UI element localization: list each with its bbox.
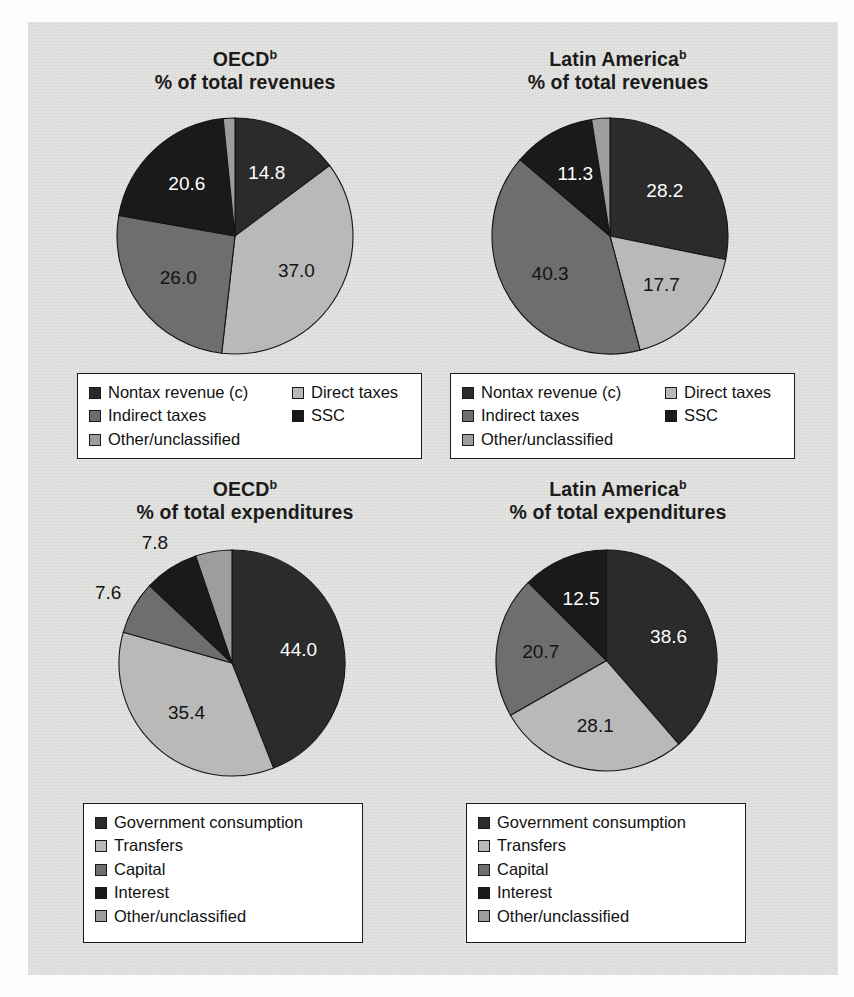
- legend-oecd-expenditures[interactable]: Government consumptionTransfersCapitalIn…: [83, 803, 363, 943]
- legend-column-2: Direct taxesSSC: [665, 381, 771, 428]
- chart-title-latin-america-expenditures: Latin Americab % of total expenditures: [428, 478, 808, 524]
- legend-item-label: Nontax revenue (c): [108, 381, 248, 404]
- legend-item-label: Other/unclassified: [497, 905, 629, 928]
- chart-title-oecd-revenues: OECDb % of total revenues: [55, 48, 435, 94]
- chart-title-latin-america-revenues: Latin Americab % of total revenues: [428, 48, 808, 94]
- pie-svg-oecd-expenditures: [117, 548, 347, 778]
- legend-item-label: Other/unclassified: [481, 428, 613, 451]
- pie-svg-latin-america-expenditures: [494, 548, 719, 773]
- legend-item[interactable]: Nontax revenue (c): [462, 381, 665, 404]
- legend-column-1: Nontax revenue (c)Indirect taxesOther/un…: [89, 381, 292, 451]
- pie-svg-latin-america-revenues: [490, 116, 730, 356]
- chart-title-superscript: b: [270, 478, 278, 492]
- legend-item-label: Government consumption: [114, 811, 303, 834]
- chart-title-superscript: b: [270, 48, 278, 62]
- transfers-swatch: [478, 840, 490, 852]
- legend-item[interactable]: Capital: [478, 858, 686, 881]
- legend-item[interactable]: Indirect taxes: [462, 404, 665, 427]
- ssc-swatch: [665, 410, 677, 422]
- chart-title-superscript: b: [679, 48, 687, 62]
- other-unclassified-swatch: [478, 910, 490, 922]
- chart-title-text: OECD: [213, 48, 270, 70]
- government-consumption-swatch: [478, 817, 490, 829]
- pie-latin-america-revenues: 28.217.740.311.3: [490, 116, 730, 356]
- pie-oecd-revenues: 14.837.026.020.6: [115, 116, 355, 356]
- legend-item[interactable]: Other/unclassified: [478, 905, 686, 928]
- legend-latin-america-expenditures[interactable]: Government consumptionTransfersCapitalIn…: [466, 803, 746, 943]
- legend-item-label: Capital: [114, 858, 165, 881]
- chart-title-text: Latin America: [549, 478, 679, 500]
- chart-title-text: OECD: [213, 478, 270, 500]
- legend-item[interactable]: Government consumption: [478, 811, 686, 834]
- legend-item[interactable]: Other/unclassified: [95, 905, 303, 928]
- chart-oecd-revenues: OECDb % of total revenues 14.837.026.020…: [55, 48, 435, 458]
- legend-item[interactable]: Transfers: [95, 834, 303, 857]
- legend-item[interactable]: Direct taxes: [665, 381, 771, 404]
- legend-latin-america-revenues[interactable]: Nontax revenue (c)Indirect taxesOther/un…: [450, 373, 795, 459]
- legend-item[interactable]: Capital: [95, 858, 303, 881]
- legend-item[interactable]: Government consumption: [95, 811, 303, 834]
- legend-item-label: Capital: [497, 858, 548, 881]
- ssc-swatch: [292, 410, 304, 422]
- legend-item-label: SSC: [311, 404, 345, 427]
- legend-item-label: Other/unclassified: [108, 428, 240, 451]
- interest-swatch: [95, 887, 107, 899]
- legend-column-1: Nontax revenue (c)Indirect taxesOther/un…: [462, 381, 665, 451]
- chart-title-text: Latin America: [549, 48, 679, 70]
- legend-item-label: Other/unclassified: [114, 905, 246, 928]
- legend-item-label: Transfers: [114, 834, 183, 857]
- legend-item-label: Nontax revenue (c): [481, 381, 621, 404]
- legend-column-1: Government consumptionTransfersCapitalIn…: [478, 811, 686, 928]
- pie-svg-oecd-revenues: [115, 116, 355, 356]
- chart-oecd-expenditures: OECDb % of total expenditures 44.035.47.…: [55, 478, 435, 963]
- pie-latin-america-expenditures: 38.628.120.712.5: [494, 548, 719, 773]
- pie-oecd-expenditures: 44.035.47.67.8: [117, 548, 347, 778]
- legend-item-label: Government consumption: [497, 811, 686, 834]
- chart-latin-america-expenditures: Latin Americab % of total expenditures 3…: [428, 478, 808, 963]
- pie-slice[interactable]: [119, 119, 235, 236]
- nontax-revenue-swatch: [462, 387, 474, 399]
- figure-page: OECDb % of total revenues 14.837.026.020…: [0, 0, 854, 997]
- chart-subtitle: % of total revenues: [55, 71, 435, 94]
- nontax-revenue-swatch: [89, 387, 101, 399]
- chart-title-oecd-expenditures: OECDb % of total expenditures: [55, 478, 435, 524]
- other-unclassified-swatch: [95, 910, 107, 922]
- legend-item-label: Direct taxes: [684, 381, 771, 404]
- legend-item[interactable]: Interest: [478, 881, 686, 904]
- legend-item-label: Direct taxes: [311, 381, 398, 404]
- legend-item[interactable]: SSC: [665, 404, 771, 427]
- direct-taxes-swatch: [665, 387, 677, 399]
- legend-item[interactable]: Transfers: [478, 834, 686, 857]
- transfers-swatch: [95, 840, 107, 852]
- legend-item-label: Transfers: [497, 834, 566, 857]
- capital-swatch: [95, 864, 107, 876]
- chart-title-superscript: b: [679, 478, 687, 492]
- legend-item[interactable]: Direct taxes: [292, 381, 398, 404]
- legend-item-label: SSC: [684, 404, 718, 427]
- indirect-taxes-swatch: [89, 410, 101, 422]
- legend-item[interactable]: Nontax revenue (c): [89, 381, 292, 404]
- legend-oecd-revenues[interactable]: Nontax revenue (c)Indirect taxesOther/un…: [77, 373, 422, 459]
- legend-item[interactable]: Interest: [95, 881, 303, 904]
- legend-item-label: Indirect taxes: [481, 404, 579, 427]
- chart-subtitle: % of total revenues: [428, 71, 808, 94]
- legend-item-label: Indirect taxes: [108, 404, 206, 427]
- indirect-taxes-swatch: [462, 410, 474, 422]
- legend-item[interactable]: Indirect taxes: [89, 404, 292, 427]
- chart-subtitle: % of total expenditures: [428, 501, 808, 524]
- pie-slice[interactable]: [117, 215, 235, 353]
- capital-swatch: [478, 864, 490, 876]
- government-consumption-swatch: [95, 817, 107, 829]
- legend-column-1: Government consumptionTransfersCapitalIn…: [95, 811, 303, 928]
- legend-item-label: Interest: [114, 881, 169, 904]
- other-unclassified-swatch: [89, 434, 101, 446]
- legend-column-2: Direct taxesSSC: [292, 381, 398, 428]
- legend-item-label: Interest: [497, 881, 552, 904]
- pie-slice[interactable]: [610, 118, 728, 260]
- chart-latin-america-revenues: Latin Americab % of total revenues 28.21…: [428, 48, 808, 458]
- legend-item[interactable]: SSC: [292, 404, 398, 427]
- legend-item[interactable]: Other/unclassified: [462, 428, 665, 451]
- legend-item[interactable]: Other/unclassified: [89, 428, 292, 451]
- direct-taxes-swatch: [292, 387, 304, 399]
- other-unclassified-swatch: [462, 434, 474, 446]
